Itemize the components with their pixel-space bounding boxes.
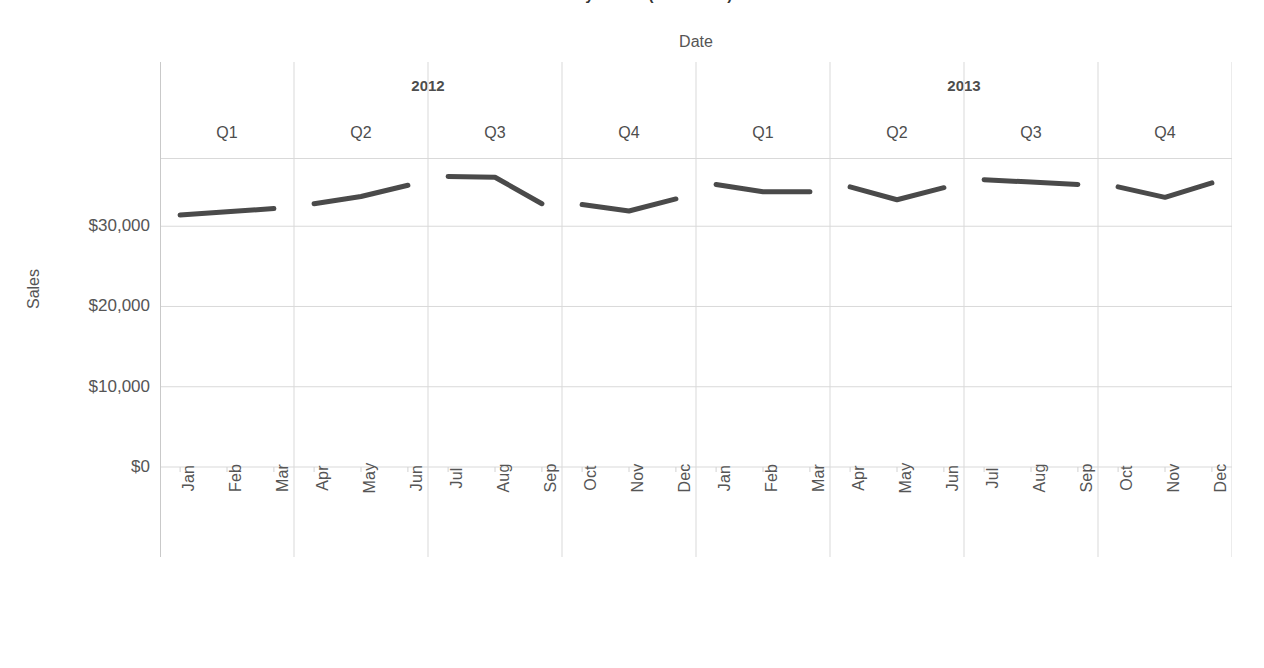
sales-line-segment[interactable] [984, 180, 1078, 185]
month-label-cell: Mar [262, 470, 286, 560]
month-label: Mar [274, 464, 292, 492]
month-label: Feb [763, 464, 781, 492]
sales-line-segment[interactable] [716, 184, 810, 191]
month-label-cell: Dec [664, 470, 688, 560]
sales-line-segment[interactable] [180, 209, 274, 215]
month-label-cell: Jul [972, 470, 996, 560]
month-label: Sep [542, 463, 560, 492]
month-label-cell: Oct [1106, 470, 1130, 560]
month-label-cell: Jul [436, 470, 460, 560]
month-label: Aug [495, 463, 513, 492]
month-label: Apr [850, 465, 868, 491]
month-label-cell: Feb [751, 470, 775, 560]
month-label: Apr [314, 465, 332, 491]
month-label-cell: Oct [570, 470, 594, 560]
y-axis-title: Sales [25, 249, 43, 329]
y-axis-tick-label: $20,000 [30, 296, 150, 316]
y-axis-tick-label: $10,000 [30, 377, 150, 397]
month-label: Aug [1031, 463, 1049, 492]
y-axis-tick-label: $30,000 [30, 216, 150, 236]
month-label-cell: Jan [168, 470, 192, 560]
month-label-cell: Aug [1019, 470, 1043, 560]
sales-line-segment[interactable] [1118, 183, 1212, 197]
month-label: Sep [1078, 463, 1096, 492]
month-label: Feb [227, 464, 245, 492]
month-label: Dec [1212, 463, 1230, 492]
month-label-cell: Aug [483, 470, 507, 560]
month-label: Nov [629, 463, 647, 492]
month-label: Dec [676, 463, 694, 492]
month-label-cell: Jun [396, 470, 420, 560]
month-label-cell: Feb [215, 470, 239, 560]
month-label-cell: May [349, 470, 373, 560]
month-label-cell: Apr [838, 470, 862, 560]
month-label: Jan [716, 465, 734, 491]
y-axis-tick-label: $0 [30, 457, 150, 477]
month-label: Jul [448, 467, 466, 488]
sales-line-segment[interactable] [314, 185, 408, 203]
month-label: Oct [1118, 465, 1136, 491]
month-label: Jun [944, 465, 962, 491]
sales-line-segment[interactable] [448, 176, 542, 203]
month-label-cell: Jan [704, 470, 728, 560]
month-label: Jun [408, 465, 426, 491]
x-axis-month-labels: JanFebMarAprMayJunJulAugSepOctNovDecJanF… [160, 470, 1232, 560]
plot-area [160, 158, 1232, 467]
month-label: May [361, 463, 379, 494]
month-label: Oct [582, 465, 600, 491]
month-label: May [897, 463, 915, 494]
x-axis-title: Date [160, 33, 1232, 51]
month-label-cell: Nov [1153, 470, 1177, 560]
month-label-cell: Sep [530, 470, 554, 560]
chart-title: Sales by Month (2012-2013) [0, 0, 1264, 3]
sales-line-chart: Sales by Month (2012-2013) Date 20122013… [0, 0, 1264, 668]
month-label: Jan [180, 465, 198, 491]
y-axis-tick-labels: $30,000$20,000$10,000$0 [22, 0, 150, 668]
month-label-cell: Apr [302, 470, 326, 560]
month-label-cell: Jun [932, 470, 956, 560]
month-label-cell: Sep [1066, 470, 1090, 560]
month-label-cell: Dec [1200, 470, 1224, 560]
sales-line-segment[interactable] [850, 187, 944, 200]
month-label: Mar [810, 464, 828, 492]
month-label: Nov [1165, 463, 1183, 492]
month-label-cell: Nov [617, 470, 641, 560]
month-label: Jul [984, 467, 1002, 488]
sales-line-segment[interactable] [582, 199, 676, 211]
month-label-cell: Mar [798, 470, 822, 560]
month-label-cell: May [885, 470, 909, 560]
